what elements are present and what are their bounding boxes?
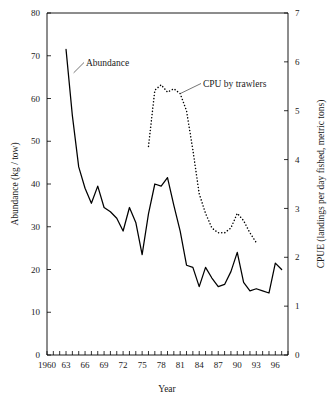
y-tick-label-right: 6	[295, 57, 300, 67]
y-tick-label-left: 70	[31, 51, 41, 61]
x-tick-label: 87	[214, 360, 224, 370]
y-tick-label-left: 40	[31, 179, 41, 189]
series-line-cpu-by-trawlers	[148, 85, 256, 243]
y-axis-right-title: CPUE (landings per day fished, metric to…	[316, 100, 327, 269]
y-tick-label-right: 2	[295, 252, 300, 262]
y-tick-label-right: 1	[295, 301, 300, 311]
y-tick-label-left: 20	[31, 265, 41, 275]
y-axis-left-ticks	[47, 13, 51, 355]
x-tick-label: 90	[233, 360, 243, 370]
x-tick-label: 96	[271, 360, 281, 370]
x-tick-label: 78	[157, 360, 167, 370]
annotation-leader-abundance	[74, 63, 84, 73]
x-tick-label: 93	[252, 360, 262, 370]
y-tick-label-left: 30	[31, 222, 41, 232]
y-axis-left-title: Abundance (kg / tow)	[10, 142, 21, 225]
y-tick-label-right: 5	[295, 106, 300, 116]
y-tick-label-right: 0	[295, 350, 300, 360]
x-tick-label: 69	[100, 360, 110, 370]
chart-figure: 1960636669727578818487909396 01020304050…	[0, 0, 336, 406]
annotation-label-abundance: Abundance	[86, 58, 129, 68]
annotation-label-cpu: CPU by trawlers	[203, 79, 267, 89]
line-chart: 1960636669727578818487909396 01020304050…	[0, 0, 336, 406]
y-tick-label-left: 0	[36, 350, 41, 360]
annotation-leader-cpu	[180, 84, 201, 94]
x-tick-label: 1960	[38, 360, 57, 370]
y-tick-label-right: 4	[295, 155, 300, 165]
x-axis-tick-labels: 1960636669727578818487909396	[38, 360, 280, 370]
y-tick-label-left: 10	[31, 307, 41, 317]
x-tick-label: 84	[195, 360, 205, 370]
x-axis-title: Year	[158, 384, 176, 394]
x-tick-label: 81	[176, 360, 185, 370]
y-axis-right-tick-labels: 01234567	[295, 8, 300, 360]
x-axis-ticks	[47, 351, 288, 355]
y-axis-right-ticks	[284, 13, 288, 355]
y-tick-label-right: 3	[295, 204, 300, 214]
y-tick-label-right: 7	[295, 8, 300, 18]
x-tick-label: 75	[138, 360, 148, 370]
x-tick-label: 66	[81, 360, 91, 370]
x-tick-label: 72	[119, 360, 128, 370]
y-tick-label-left: 60	[31, 94, 41, 104]
y-axis-left-tick-labels: 01020304050607080	[31, 8, 41, 360]
x-tick-label: 63	[62, 360, 72, 370]
y-tick-label-left: 80	[31, 8, 41, 18]
y-tick-label-left: 50	[31, 136, 41, 146]
